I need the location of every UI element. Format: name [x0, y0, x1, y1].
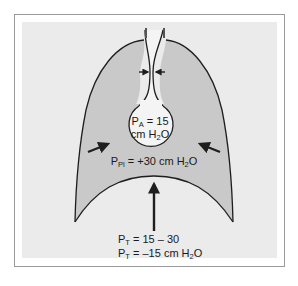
alveolar-pressure-units: cm H2O	[131, 128, 170, 142]
lung-pressure-diagram: PA = 15 cm H2O PPl = +30 cm H2O PT = 15 …	[0, 0, 298, 286]
alveolar-pressure-label: PA = 15	[131, 115, 168, 129]
